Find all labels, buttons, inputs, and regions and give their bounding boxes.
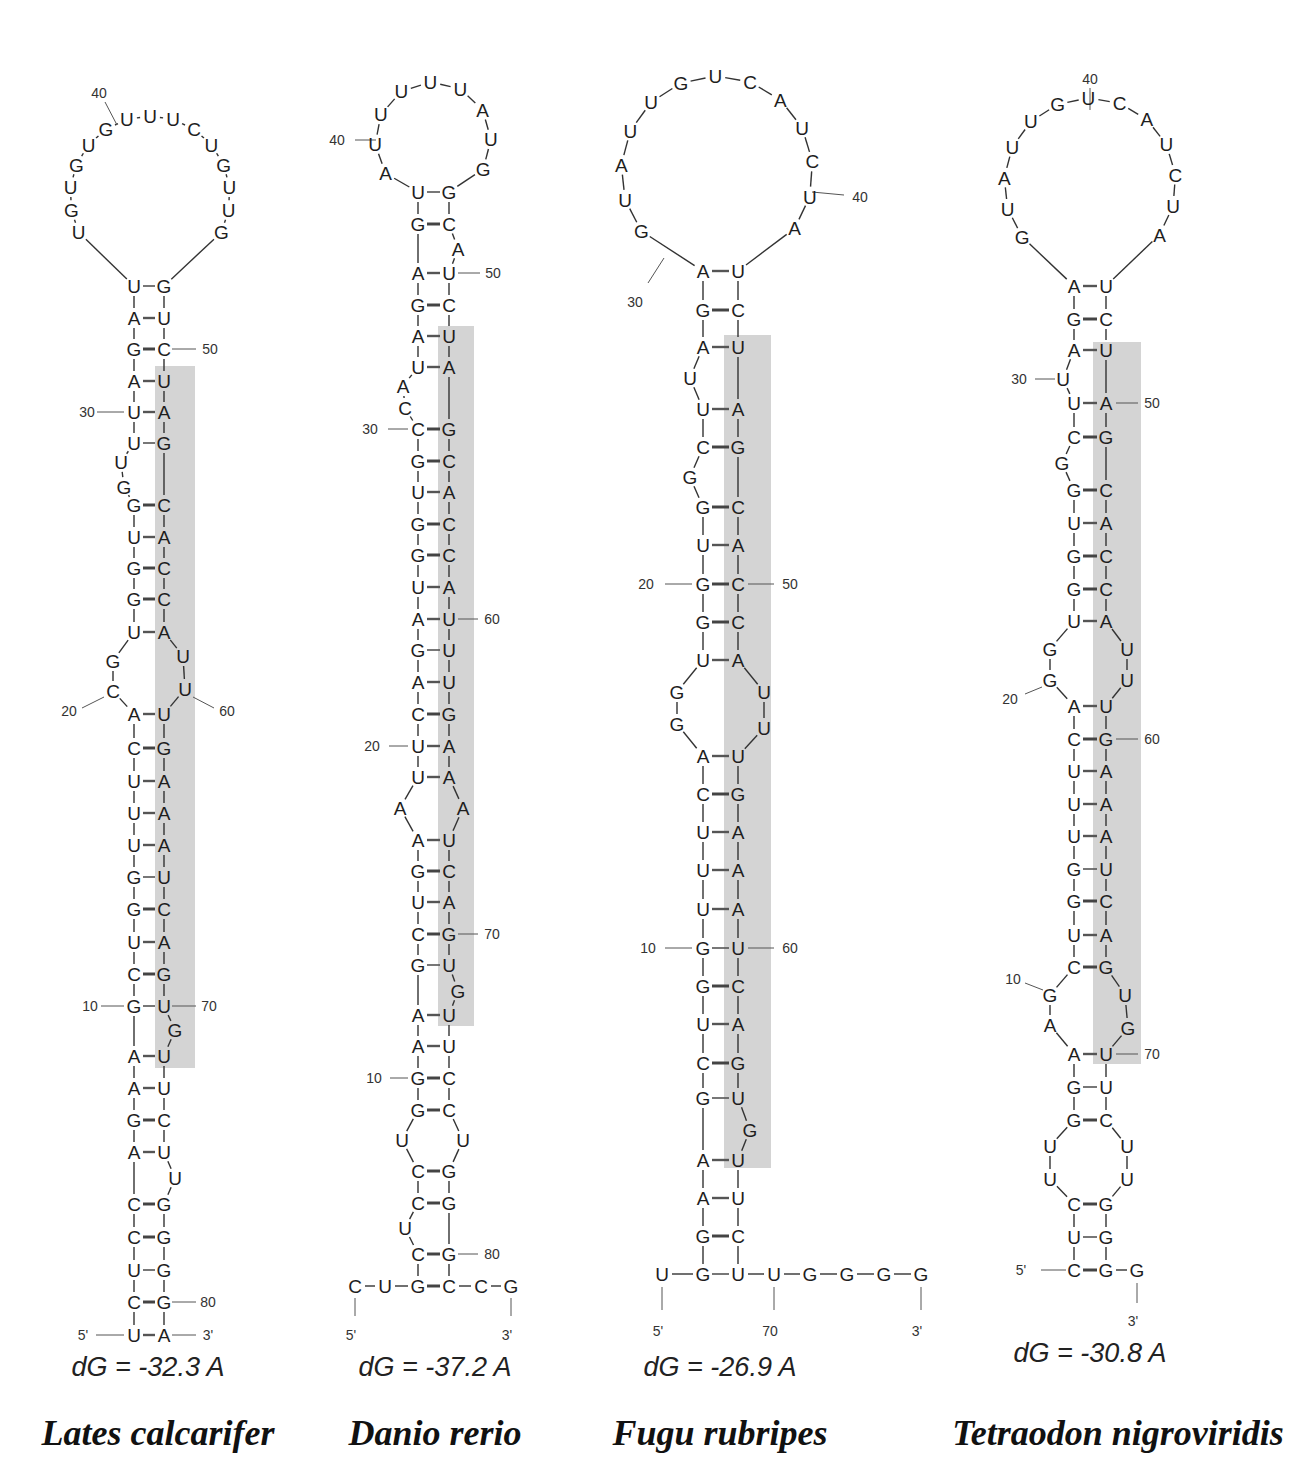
stem-nucleotide: G <box>1064 547 1084 566</box>
stem-nucleotide: A <box>693 338 713 357</box>
position-label: 3' <box>203 1328 213 1342</box>
stem-nucleotide: A <box>154 836 174 855</box>
stem-nucleotide: A <box>408 1006 428 1025</box>
stem-nucleotide: A <box>728 651 748 670</box>
stem-nucleotide: G <box>439 925 459 944</box>
stem-nucleotide: U <box>408 578 428 597</box>
stem-nucleotide: A <box>124 1143 144 1162</box>
stem-nucleotide: G <box>693 613 713 632</box>
position-label: 5' <box>653 1324 663 1338</box>
bulge-nucleotide: U <box>1117 671 1137 690</box>
stem-nucleotide: U <box>124 804 144 823</box>
stem-nucleotide: C <box>154 340 174 359</box>
position-label: 50 <box>485 266 501 280</box>
stem-nucleotide: U <box>154 372 174 391</box>
stem-nucleotide: A <box>154 528 174 547</box>
stem-nucleotide: U <box>154 705 174 724</box>
stem-nucleotide: C <box>408 1245 428 1264</box>
loop-nucleotide: G <box>1048 95 1068 114</box>
stem-nucleotide: A <box>124 705 144 724</box>
bulge-nucleotide: U <box>1115 986 1135 1005</box>
stem-nucleotide: U <box>439 264 459 283</box>
stem-nucleotide: C <box>439 1101 459 1120</box>
stem-nucleotide: G <box>693 498 713 517</box>
position-label: 50 <box>202 342 218 356</box>
stem-nucleotide: U <box>693 651 713 670</box>
tail-nucleotide: G <box>837 1265 857 1284</box>
stem-nucleotide: C <box>1096 481 1116 500</box>
loop-nucleotide: U <box>420 73 440 92</box>
stem-nucleotide: U <box>408 183 428 202</box>
bulge-nucleotide: G <box>1040 671 1060 690</box>
bulge-nucleotide: C <box>103 682 123 701</box>
stem-nucleotide: U <box>1064 827 1084 846</box>
stem-nucleotide: A <box>1096 827 1116 846</box>
stem-nucleotide: G <box>1096 1195 1116 1214</box>
stem-nucleotide: G <box>728 785 748 804</box>
stem-nucleotide: A <box>124 1079 144 1098</box>
stem-nucleotide: A <box>408 673 428 692</box>
loop-nucleotide: U <box>1163 197 1183 216</box>
stem-nucleotide: U <box>728 1189 748 1208</box>
stem-nucleotide: U <box>154 1079 174 1098</box>
stem-nucleotide: U <box>439 610 459 629</box>
bulge-nucleotide: A <box>393 377 413 396</box>
stem-nucleotide: U <box>439 673 459 692</box>
stem-nucleotide: U <box>439 327 459 346</box>
position-label: 5' <box>1016 1263 1026 1277</box>
stem-nucleotide: A <box>1064 697 1084 716</box>
bulge-nucleotide: U <box>1117 640 1137 659</box>
stem-nucleotide: A <box>1096 394 1116 413</box>
stem-nucleotide: A <box>408 327 428 346</box>
stem-nucleotide: G <box>154 739 174 758</box>
loop-nucleotide: A <box>375 164 395 183</box>
stem-nucleotide: G <box>124 340 144 359</box>
stem-nucleotide: C <box>693 438 713 457</box>
stem-nucleotide: U <box>124 933 144 952</box>
bulge-nucleotide: U <box>1053 370 1073 389</box>
loop-nucleotide: U <box>365 135 385 154</box>
stem-nucleotide: U <box>1096 277 1116 296</box>
stem-nucleotide: U <box>154 868 174 887</box>
stem-nucleotide: A <box>154 1326 174 1345</box>
stem-nucleotide: C <box>154 496 174 515</box>
stem-nucleotide: A <box>1096 926 1116 945</box>
loop-nucleotide: G <box>1012 227 1032 246</box>
position-label: 30 <box>362 422 378 436</box>
stem-nucleotide: G <box>408 641 428 660</box>
stem-nucleotide: C <box>124 1228 144 1247</box>
position-label: 60 <box>1144 732 1160 746</box>
loop-nucleotide: G <box>631 222 651 241</box>
stem-nucleotide: G <box>1096 1228 1116 1247</box>
position-label: 3' <box>912 1324 922 1338</box>
stem-nucleotide: C <box>124 1293 144 1312</box>
position-label: 20 <box>1002 692 1018 706</box>
stem-nucleotide: C <box>1096 547 1116 566</box>
stem-nucleotide: G <box>408 862 428 881</box>
stem-nucleotide: C <box>439 1069 459 1088</box>
stem-nucleotide: G <box>693 575 713 594</box>
stem-nucleotide: U <box>124 1326 144 1345</box>
stem-nucleotide: C <box>693 1054 713 1073</box>
bulge-nucleotide: U <box>175 680 195 699</box>
stem-nucleotide: A <box>439 768 459 787</box>
position-label: 5' <box>346 1328 356 1342</box>
loop-nucleotide: U <box>219 178 239 197</box>
stem-nucleotide: U <box>408 358 428 377</box>
stem-nucleotide: G <box>693 301 713 320</box>
stem-nucleotide: A <box>728 861 748 880</box>
tail-nucleotide: U <box>375 1277 395 1296</box>
bulge-nucleotide: G <box>740 1121 760 1140</box>
loop-nucleotide: U <box>1021 112 1041 131</box>
loop-nucleotide: U <box>1078 89 1098 108</box>
stem-nucleotide: U <box>1096 697 1116 716</box>
stem-nucleotide: A <box>728 900 748 919</box>
tail-nucleotide: G <box>800 1265 820 1284</box>
loop-nucleotide: C <box>1110 94 1130 113</box>
free-energy-label: dG = -37.2 A <box>359 1352 512 1383</box>
loop-nucleotide: G <box>211 223 231 242</box>
stem-nucleotide: A <box>408 1037 428 1056</box>
stem-nucleotide: C <box>408 1194 428 1213</box>
bulge-nucleotide: G <box>1118 1019 1138 1038</box>
position-label: 80 <box>200 1295 216 1309</box>
